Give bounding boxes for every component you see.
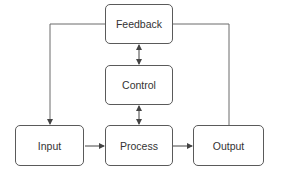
node-label: Control	[122, 79, 156, 91]
node-input: Input	[15, 125, 84, 166]
edge-output-to-feedback	[173, 24, 229, 125]
node-label: Feedback	[116, 18, 162, 30]
node-label: Output	[213, 140, 245, 152]
edge-feedback-to-input	[50, 24, 105, 124]
node-label: Process	[120, 140, 158, 152]
node-process: Process	[105, 125, 173, 166]
node-control: Control	[105, 65, 173, 105]
node-feedback: Feedback	[105, 4, 173, 44]
node-output: Output	[193, 125, 264, 166]
node-label: Input	[38, 140, 61, 152]
